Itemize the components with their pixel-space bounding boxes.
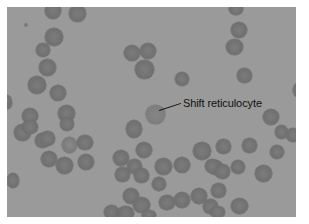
red-blood-cell [293,83,296,97]
red-blood-cell [231,198,248,214]
red-blood-cell [45,28,63,46]
red-blood-cell [41,151,57,167]
red-blood-cell [56,157,73,174]
micrograph-image [7,7,296,217]
red-blood-cell [39,59,56,76]
red-blood-cell [174,157,190,173]
red-blood-cell [152,177,166,191]
red-blood-cell [270,145,284,159]
red-blood-cell [175,72,189,86]
red-blood-cell [242,138,257,153]
red-blood-cell [28,76,46,94]
red-blood-cell [45,7,61,19]
red-blood-cell [231,160,245,174]
red-blood-cell [40,131,55,146]
red-blood-cell [124,45,140,61]
red-blood-cell [78,154,94,170]
red-blood-cell [135,60,154,79]
red-blood-cell [237,68,252,83]
red-blood-cell [193,142,211,160]
red-blood-cell [286,128,296,142]
red-blood-cell [215,164,230,179]
red-blood-cell [69,7,86,22]
red-blood-cell [115,167,130,182]
red-blood-cell [229,7,243,15]
red-blood-cell [216,139,231,154]
red-blood-cell [50,85,66,101]
annotation-label: Shift reticulocyte [183,97,262,109]
red-blood-cell [126,120,142,138]
red-blood-cell [211,183,226,198]
red-blood-cell [134,168,149,183]
red-blood-cell [142,210,156,217]
red-blood-cell [174,192,190,208]
red-blood-cell [226,39,243,55]
red-blood-cell [140,43,156,59]
red-blood-cell [22,120,38,134]
red-blood-cell [60,117,74,131]
red-blood-cell [77,135,93,150]
red-blood-cell [136,142,152,158]
red-blood-cell [36,43,50,57]
red-blood-cell [263,109,279,125]
red-blood-cell [155,158,172,175]
red-blood-cell [210,206,225,217]
red-blood-cell [117,206,134,217]
red-blood-cell [255,165,272,182]
red-blood-cell [231,22,247,38]
red-blood-cell [159,195,175,210]
debris [24,23,28,27]
red-blood-cell [62,137,77,153]
red-blood-cell [7,173,19,188]
